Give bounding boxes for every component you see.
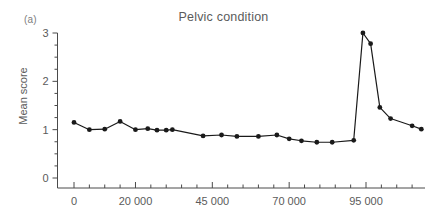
data-point bbox=[87, 127, 92, 132]
x-tick-label: 95 000 bbox=[349, 195, 383, 207]
data-point bbox=[274, 133, 279, 138]
data-point bbox=[410, 123, 415, 128]
data-point bbox=[419, 127, 424, 132]
data-point bbox=[377, 105, 382, 110]
x-tick-label: 0 bbox=[71, 195, 77, 207]
x-tick-label: 70 000 bbox=[272, 195, 306, 207]
data-point bbox=[155, 128, 160, 133]
data-point bbox=[388, 116, 393, 121]
y-axis: 0123 bbox=[42, 27, 57, 188]
data-point bbox=[314, 140, 319, 145]
y-tick-label: 2 bbox=[42, 75, 48, 87]
figure-panel: (a) Pelvic condition Mean score 0123 020… bbox=[0, 0, 447, 222]
data-point bbox=[164, 128, 169, 133]
data-point bbox=[330, 140, 335, 145]
data-point bbox=[102, 127, 107, 132]
data-point bbox=[256, 134, 261, 139]
data-point bbox=[219, 133, 224, 138]
line-chart-plot: 0123 020 00045 00070 00095 000 bbox=[0, 0, 447, 222]
y-tick-label: 3 bbox=[42, 27, 48, 39]
y-tick-label: 0 bbox=[42, 172, 48, 184]
x-tick-label: 20 000 bbox=[119, 195, 153, 207]
data-point bbox=[351, 138, 356, 143]
data-point bbox=[72, 120, 77, 125]
data-point bbox=[368, 41, 373, 46]
data-point bbox=[201, 134, 206, 139]
data-series-mean-score bbox=[72, 31, 424, 145]
data-point bbox=[145, 126, 150, 131]
data-point bbox=[170, 127, 175, 132]
data-point bbox=[299, 138, 304, 143]
data-point bbox=[361, 31, 366, 36]
y-tick-label: 1 bbox=[42, 124, 48, 136]
x-axis: 020 00045 00070 00095 000 bbox=[58, 182, 426, 207]
data-point bbox=[287, 136, 292, 141]
data-point bbox=[118, 119, 123, 124]
data-point bbox=[133, 127, 138, 132]
data-point bbox=[235, 134, 240, 139]
x-tick-label: 45 000 bbox=[195, 195, 229, 207]
